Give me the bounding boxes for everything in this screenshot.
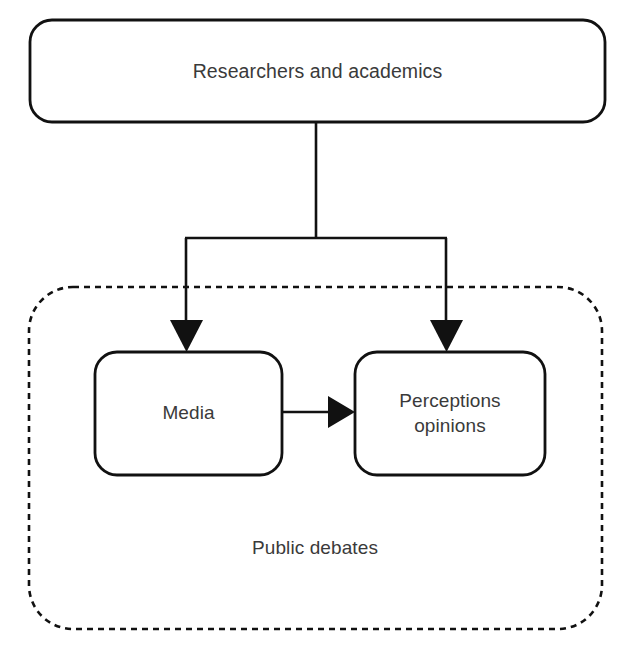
diagram-canvas: Researchers and academics Media Percepti…: [0, 0, 623, 649]
diagram-vector-layer: [0, 0, 623, 649]
node-box-media[interactable]: [95, 352, 282, 475]
node-box-perceptions[interactable]: [355, 352, 545, 475]
node-box-researchers[interactable]: [30, 20, 605, 122]
